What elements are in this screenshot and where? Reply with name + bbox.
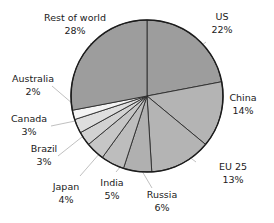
label-canada-value: 3%	[21, 126, 36, 137]
label-china-name: China	[229, 92, 256, 103]
label-india-name: India	[100, 177, 123, 188]
label-rest-of-world-name: Rest of world	[44, 12, 106, 23]
label-us-value: 22%	[211, 24, 232, 35]
label-japan-name: Japan	[52, 181, 80, 192]
label-canada-name: Canada	[11, 113, 47, 124]
label-australia-value: 2%	[25, 86, 40, 97]
pie-chart-svg: Rest of world 28% US 22% China 14% EU 25…	[0, 0, 274, 223]
pie-chart-figure: Rest of world 28% US 22% China 14% EU 25…	[0, 0, 274, 223]
label-eu25-value: 13%	[222, 174, 243, 185]
label-brazil-value: 3%	[36, 156, 51, 167]
leader-line-russia	[142, 171, 152, 188]
label-india-value: 5%	[104, 190, 119, 201]
label-brazil-name: Brazil	[31, 143, 58, 154]
label-rest-of-world-value: 28%	[64, 25, 85, 36]
label-australia-name: Australia	[12, 73, 54, 84]
label-us-name: US	[216, 11, 229, 22]
label-russia-name: Russia	[147, 189, 178, 200]
label-russia-value: 6%	[154, 202, 169, 213]
label-japan-value: 4%	[58, 194, 73, 205]
label-china-value: 14%	[232, 105, 253, 116]
label-eu25-name: EU 25	[219, 161, 247, 172]
